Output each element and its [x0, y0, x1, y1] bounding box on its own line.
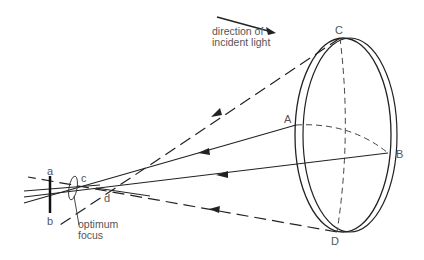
label-c: c: [81, 173, 87, 184]
lens-meridian-cd: [337, 38, 345, 232]
label-d: d: [104, 193, 110, 204]
optimum-focus-circle: [67, 175, 79, 200]
arrowhead-ray-c: [211, 108, 222, 117]
label-b: b: [47, 216, 53, 227]
label-a: a: [47, 166, 53, 177]
ray-c-marginal: [60, 38, 340, 225]
lens-arc-ab: [296, 125, 388, 153]
ray-a: [24, 125, 296, 203]
direction-caption-line2: incident light: [212, 37, 270, 48]
lens-rim-back: [303, 38, 397, 232]
label-D: D: [331, 236, 339, 247]
lens-front: [295, 38, 391, 232]
label-B: B: [396, 149, 403, 160]
direction-caption: direction of incident light: [212, 26, 270, 48]
arrowhead-ray-d: [209, 206, 220, 213]
ray-d-marginal: [28, 177, 337, 232]
focus-caption: optimum focus: [78, 219, 118, 241]
label-C: C: [335, 25, 343, 36]
arrowhead-ray-a: [198, 148, 210, 155]
label-A: A: [284, 114, 291, 125]
arrowhead-ray-b: [216, 171, 228, 178]
focus-caption-line2: focus: [78, 230, 118, 241]
ray-b: [24, 153, 388, 197]
